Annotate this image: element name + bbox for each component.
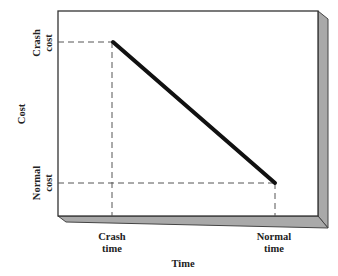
normal-cost-label-line1: Normal: [31, 166, 42, 200]
frame-depth-bottom: [58, 216, 328, 228]
normal-cost-label-line2: cost: [43, 174, 54, 192]
crash-time-label-line2: time: [102, 243, 122, 254]
x-axis-label: Time: [171, 258, 194, 269]
normal-time-label-line1: Normal: [257, 231, 291, 242]
crash-cost-label-line2: cost: [43, 34, 54, 52]
normal-time-label-line2: time: [264, 243, 284, 254]
crash-time-label-line1: Crash: [98, 231, 126, 242]
crash-cost-label-line1: Crash: [31, 29, 42, 57]
y-axis-label: Cost: [16, 103, 27, 124]
frame-depth-right: [318, 11, 328, 228]
crash-cost-diagram: Crash cost Normal cost Cost Crash time N…: [0, 0, 338, 276]
plot-frame: [58, 11, 318, 216]
